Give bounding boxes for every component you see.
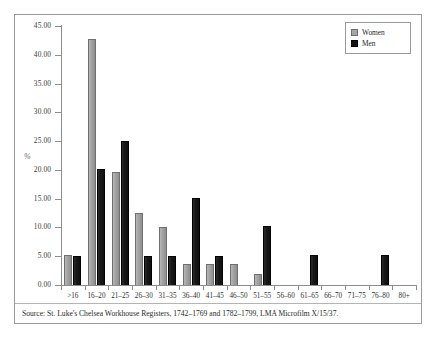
bar-women-6: [206, 264, 214, 285]
y-axis-tick-label: 15.00: [0, 195, 51, 202]
x-axis-tick: [203, 285, 204, 290]
y-axis-tick-label: 35.00: [0, 80, 51, 87]
legend-item-women[interactable]: Women: [351, 27, 405, 38]
x-axis-line: [61, 285, 416, 286]
y-axis-tick-label: 45.00: [0, 22, 51, 29]
y-axis-tick-label: 40.00: [0, 51, 51, 58]
legend-item-label: Women: [362, 28, 385, 37]
plot-area: [61, 26, 416, 285]
figure-container: % 0.005.0010.0015.0020.0025.0030.0035.00…: [0, 0, 436, 343]
source-note: Source: St. Luke's Chelsea Workhouse Reg…: [22, 309, 338, 319]
bar-men-10: [310, 255, 318, 285]
x-axis-tick-label: 80+: [381, 292, 428, 300]
legend-swatch-women: [351, 29, 358, 36]
bar-women-5: [183, 264, 191, 285]
bar-women-3: [135, 213, 143, 285]
y-axis-tick-label: 5.00: [0, 252, 51, 259]
x-axis-tick: [345, 285, 346, 290]
bar-women-7: [230, 264, 238, 285]
x-axis-tick: [321, 285, 322, 290]
bar-men-3: [144, 256, 152, 285]
x-axis-tick: [250, 285, 251, 290]
bar-men-2: [121, 141, 129, 285]
x-axis-tick: [298, 285, 299, 290]
x-axis-tick: [132, 285, 133, 290]
bar-women-0: [64, 255, 72, 286]
x-axis-tick: [416, 285, 417, 290]
bar-men-6: [215, 256, 223, 285]
y-axis-tick-label: 20.00: [0, 166, 51, 173]
bar-women-1: [88, 39, 96, 285]
x-axis-tick: [61, 285, 62, 290]
x-axis-tick: [108, 285, 109, 290]
y-axis-tick-label: 10.00: [0, 223, 51, 230]
x-axis-tick: [369, 285, 370, 290]
legend-item-men[interactable]: Men: [351, 38, 405, 49]
legend-item-label: Men: [362, 39, 376, 48]
bar-women-4: [159, 227, 167, 285]
x-axis-tick: [156, 285, 157, 290]
legend-swatch-men: [351, 40, 358, 47]
bar-women-8: [254, 274, 262, 286]
bar-men-8: [263, 226, 271, 285]
y-axis-tick-label: 30.00: [0, 108, 51, 115]
y-axis-title: %: [24, 152, 31, 161]
x-axis-tick: [227, 285, 228, 290]
y-axis-tick-label: 25.00: [0, 137, 51, 144]
x-axis-tick: [392, 285, 393, 290]
x-axis-tick: [274, 285, 275, 290]
bar-men-13: [381, 255, 389, 285]
bar-women-2: [112, 172, 120, 285]
bar-men-5: [192, 198, 200, 285]
chart-legend: WomenMen: [345, 22, 411, 54]
source-divider: [15, 303, 421, 304]
x-axis-tick: [85, 285, 86, 290]
bar-men-1: [97, 169, 105, 285]
x-axis-tick: [179, 285, 180, 290]
bar-men-0: [73, 256, 81, 285]
bar-men-4: [168, 256, 176, 285]
y-axis-tick-label: 0.00: [0, 281, 51, 288]
